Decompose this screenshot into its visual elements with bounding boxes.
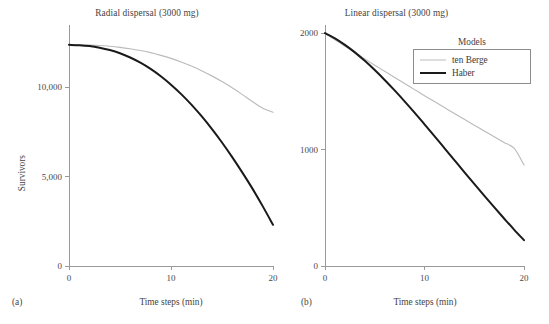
panel-b-xtick-label: 20 — [520, 273, 529, 283]
panel-b-xtick-label: 10 — [420, 273, 429, 283]
panel-b-ytick-label: 0 — [280, 261, 318, 271]
panel-a-x-axis-title: Time steps (min) — [139, 297, 202, 307]
legend-box: ten Berge Haber — [413, 49, 531, 84]
panel-b-x-axis-title: Time steps (min) — [393, 297, 456, 307]
legend-item-ten-berge[interactable]: ten Berge — [420, 53, 524, 66]
panel-b-ytick-label: 2000 — [280, 28, 318, 38]
legend-line-swatch-haber — [420, 68, 446, 78]
panel-a-ytick-label: 0 — [0, 261, 62, 271]
legend: Models ten Berge Haber — [413, 37, 531, 84]
legend-item-haber[interactable]: Haber — [420, 66, 524, 79]
panel-a-y-axis-title: Survivors — [17, 155, 27, 191]
legend-label-ten-berge: ten Berge — [446, 55, 488, 65]
panel-a-ytick-label: 10,000 — [0, 82, 62, 92]
subplot-label-b: (b) — [301, 297, 312, 307]
panel-b-xtick-label: 0 — [323, 273, 328, 283]
panel-a-xtick-label: 20 — [269, 273, 278, 283]
legend-title: Models — [413, 37, 531, 47]
subplot-label-a: (a) — [12, 297, 22, 307]
panel-a-xtick-label: 0 — [67, 273, 72, 283]
panel-a-xtick-label: 10 — [167, 273, 176, 283]
panel-a-ytick-label: 5,000 — [0, 172, 62, 182]
panel-a-radial-dispersal: Radial dispersal (3000 mg) 0 5,000 10,00… — [0, 0, 280, 324]
legend-line-swatch-ten-berge — [420, 55, 446, 65]
figure-two-panel-line-charts: Radial dispersal (3000 mg) 0 5,000 10,00… — [0, 0, 549, 324]
legend-label-haber: Haber — [446, 68, 475, 78]
panel-b-ytick-label: 1000 — [280, 145, 318, 155]
panel-a-plot-area — [0, 0, 280, 324]
